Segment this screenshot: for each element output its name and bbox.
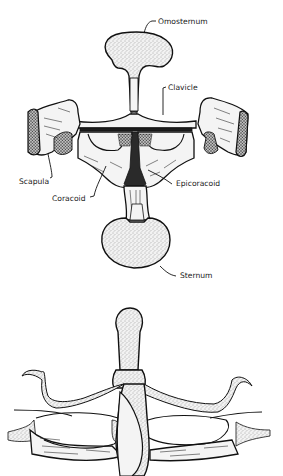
label-sternum: Sternum [180,271,212,280]
top-diagram: Omosternum Clavicle Scapula Coracoid Epi… [19,17,248,280]
label-scapula: Scapula [19,177,49,186]
label-coracoid: Coracoid [52,194,86,203]
label-epicoracoid: Epicoracoid [176,179,220,188]
label-omosternum: Omosternum [158,17,208,26]
bottom-diagram [8,308,270,476]
right-scapula-shape [198,98,248,157]
left-scapula-shape [28,100,80,155]
pectoral-girdle-figure: Omosternum Clavicle Scapula Coracoid Epi… [0,0,283,476]
clavicle-shape [74,114,196,131]
label-clavicle: Clavicle [168,83,198,92]
omosternum-shape [105,32,172,122]
sternum-shape [102,186,170,268]
